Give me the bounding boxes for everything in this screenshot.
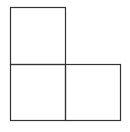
- top-left-square: [11, 8, 66, 65]
- bottom-left-square: [11, 65, 66, 121]
- l-shape-diagram: [0, 0, 130, 132]
- bottom-right-square: [66, 65, 121, 121]
- diagram-canvas: [0, 0, 130, 132]
